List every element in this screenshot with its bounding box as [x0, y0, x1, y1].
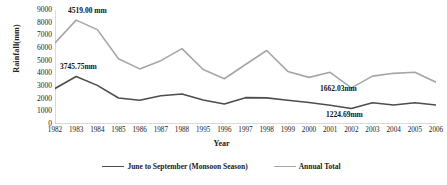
- y-tick-label: 4000: [37, 69, 52, 77]
- x-tick-label: 1985: [108, 126, 130, 135]
- x-tick-label: 2004: [383, 126, 405, 135]
- y-tick-label: 3000: [37, 82, 52, 90]
- y-tick-label: 7000: [37, 31, 52, 39]
- x-tick-label: 1997: [235, 126, 257, 135]
- y-tick-label: 2000: [37, 95, 52, 103]
- x-axis-tick-labels: 1982198319841985198619871988199519961997…: [55, 126, 436, 138]
- x-tick-label: 1982: [44, 126, 66, 135]
- x-tick-label: 1983: [65, 126, 87, 135]
- y-tick-label: 6000: [37, 44, 52, 52]
- monsoon-min-label: 1224.69mm: [326, 110, 363, 119]
- x-tick-label: 1988: [171, 126, 193, 135]
- x-tick-label: 1984: [86, 126, 108, 135]
- legend-label: June to September (Monsoon Season): [127, 162, 247, 171]
- series-line: [55, 20, 436, 88]
- x-tick-label: 2005: [404, 126, 426, 135]
- monsoon-peak-label: 3745.75mm: [60, 62, 97, 71]
- x-tick-label: 1995: [192, 126, 214, 135]
- annual-min-label: 1662.03mm: [320, 84, 357, 93]
- x-tick-label: 2001: [319, 126, 341, 135]
- y-tick-label: 9000: [37, 6, 52, 14]
- x-axis-title: Year: [0, 139, 443, 148]
- plot-svg: [55, 10, 436, 124]
- annual-peak-label: 4519.00 mm: [68, 6, 107, 15]
- x-tick-label: 1996: [213, 126, 235, 135]
- y-axis-tick-labels: 9000800070006000500040003000200010000: [22, 0, 52, 132]
- legend-line-icon: [102, 166, 124, 167]
- legend-item: June to September (Monsoon Season): [102, 162, 247, 171]
- legend-item: Annual Total: [274, 162, 341, 171]
- x-tick-label: 2002: [340, 126, 362, 135]
- y-tick-label: 8000: [37, 19, 52, 27]
- plot-area: [55, 10, 436, 124]
- y-tick-label: 1000: [37, 107, 52, 115]
- x-tick-label: 1986: [129, 126, 151, 135]
- x-tick-label: 1998: [256, 126, 278, 135]
- x-tick-label: 2000: [298, 126, 320, 135]
- x-tick-label: 2006: [425, 126, 447, 135]
- legend-label: Annual Total: [299, 162, 341, 171]
- y-tick-label: 5000: [37, 57, 52, 65]
- x-tick-label: 2003: [362, 126, 384, 135]
- x-tick-label: 1999: [277, 126, 299, 135]
- x-tick-label: 1987: [150, 126, 172, 135]
- legend-line-icon: [274, 166, 296, 167]
- series-line: [55, 77, 436, 109]
- chart-legend: June to September (Monsoon Season)Annual…: [0, 158, 443, 174]
- y-axis-title: Rainfall(mm): [12, 1, 21, 97]
